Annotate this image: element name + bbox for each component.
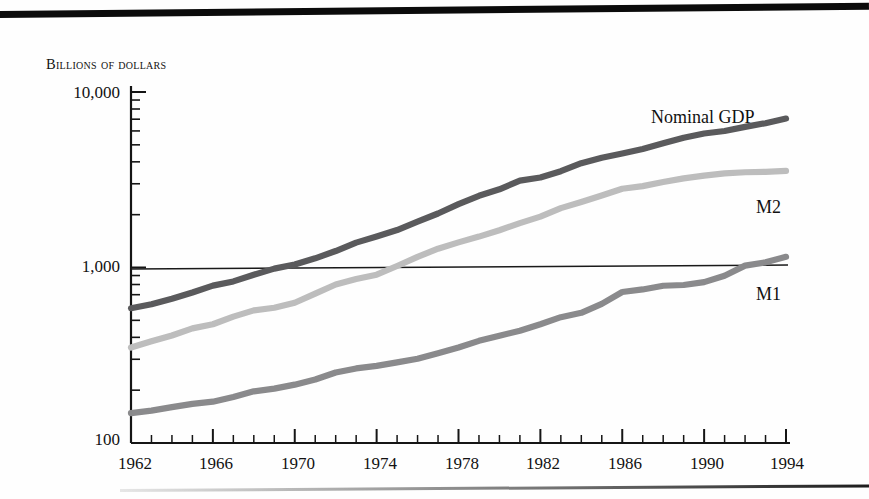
x-tick-label-1974: 1974 — [345, 455, 415, 472]
x-tick-label-1982: 1982 — [508, 455, 578, 472]
x-tick-label-1970: 1970 — [263, 455, 333, 472]
y-tick-label-10000: 10,000 — [34, 84, 120, 101]
x-tick-label-1978: 1978 — [427, 455, 497, 472]
x-tick-label-1962: 1962 — [100, 455, 170, 472]
y-tick-label-100: 100 — [34, 431, 120, 448]
series-label-m1: M1 — [756, 285, 781, 303]
gridline-1000 — [131, 265, 788, 269]
figure-page: Billions of dollars 10,000 1,000 100 196… — [0, 0, 869, 499]
x-tick-label-1966: 1966 — [181, 455, 251, 472]
series-line-nominal-gdp — [131, 119, 786, 309]
series-line-m2 — [131, 171, 786, 348]
x-tick-label-1986: 1986 — [590, 455, 660, 472]
x-tick-label-1990: 1990 — [672, 455, 742, 472]
y-tick-label-1000: 1,000 — [34, 258, 120, 275]
x-tick-label-1994: 1994 — [752, 455, 822, 472]
series-label-m2: M2 — [756, 198, 781, 216]
line-chart-canvas — [0, 0, 869, 499]
chart-plot-area — [131, 86, 790, 443]
series-label-nominal-gdp: Nominal GDP — [651, 108, 755, 126]
